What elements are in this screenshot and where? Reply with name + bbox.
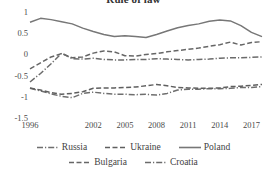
legend-row-primary: RussiaUkrainePoland (0, 139, 267, 155)
x-axis-tick-label: 2005 (116, 120, 133, 130)
legend-swatch-ukraine (105, 143, 127, 152)
legend-item-croatia[interactable]: Croatia (145, 157, 198, 167)
series-line-croatia (30, 53, 262, 82)
y-axis: 10.50-0.5-1-1.5 (0, 12, 28, 118)
legend-swatch-poland (179, 143, 201, 152)
legend-label-croatia: Croatia (170, 157, 198, 167)
series-line-russia (30, 87, 262, 98)
legend-item-russia[interactable]: Russia (37, 142, 87, 152)
rule-of-law-chart: Rule of law 10.50-0.5-1-1.5 199620022005… (0, 0, 267, 177)
y-axis-tick-label: -0.5 (0, 71, 28, 80)
legend-swatch-russia (37, 143, 59, 152)
legend-swatch-croatia (145, 158, 167, 167)
chart-legend: RussiaUkrainePoland BulgariaCroatia (0, 138, 267, 176)
x-axis-tick-label: 2011 (180, 120, 197, 130)
series-line-poland (30, 18, 262, 37)
plot-area (30, 12, 262, 118)
y-axis-tick-label: 0.5 (0, 29, 28, 38)
x-axis-tick-label: 1996 (22, 120, 39, 130)
x-axis-tick-label: 2008 (148, 120, 165, 130)
x-axis-tick-label: 2002 (85, 120, 102, 130)
x-axis-tick-label: 2014 (211, 120, 228, 130)
series-line-ukraine (30, 85, 262, 95)
x-axis-tick-label: 2017 (243, 120, 260, 130)
legend-label-russia: Russia (62, 142, 87, 152)
legend-swatch-bulgaria (69, 158, 91, 167)
legend-item-bulgaria[interactable]: Bulgaria (69, 157, 127, 167)
y-axis-tick-label: -1 (0, 93, 28, 102)
legend-row-secondary: BulgariaCroatia (0, 154, 267, 170)
legend-label-poland: Poland (204, 142, 230, 152)
series-lines (30, 12, 262, 118)
x-axis: 1996200220052008201120142017 (30, 120, 262, 134)
y-axis-tick-label: 0 (0, 50, 28, 59)
legend-item-poland[interactable]: Poland (179, 142, 230, 152)
y-axis-tick-label: 1 (0, 8, 28, 17)
chart-title: Rule of law (0, 0, 267, 5)
legend-item-ukraine[interactable]: Ukraine (105, 142, 161, 152)
legend-label-bulgaria: Bulgaria (94, 157, 127, 167)
legend-label-ukraine: Ukraine (130, 142, 161, 152)
